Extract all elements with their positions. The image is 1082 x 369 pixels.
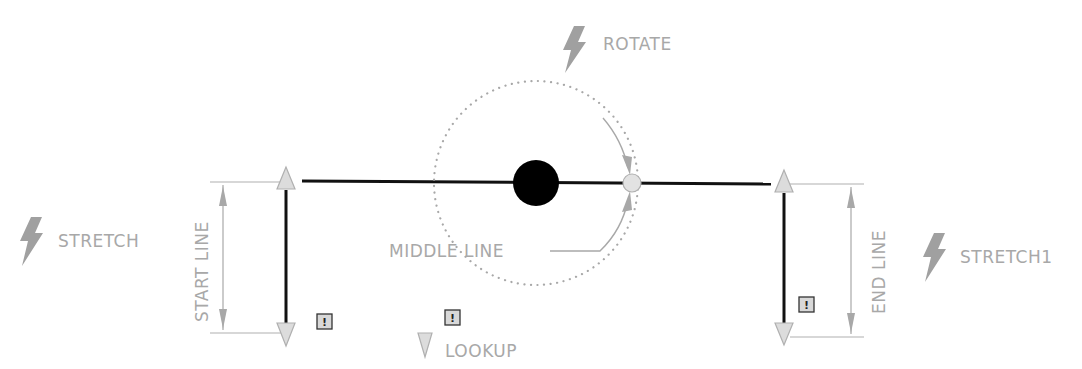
stretch1-action[interactable]: STRETCH1 [923, 233, 1053, 282]
base-point-grip[interactable] [513, 160, 559, 206]
arrowhead-icon [219, 186, 227, 206]
stretch-label: STRETCH [58, 231, 139, 251]
lightning-bolt-icon [563, 26, 586, 73]
leader-line [550, 200, 628, 251]
stretch-action[interactable]: STRETCH [20, 217, 139, 266]
svg-text:!: ! [322, 316, 327, 329]
dynamic-block-diagram: ROTATE STRETCH STRETCH1 START LINE END L… [0, 0, 1082, 369]
arrowhead-icon [847, 313, 855, 333]
lookup-action[interactable]: LOOKUP [418, 333, 517, 361]
lookup-label: LOOKUP [445, 341, 517, 361]
lookup-triangle-icon [418, 333, 432, 357]
end-line-label: END LINE [869, 230, 889, 314]
svg-text:!: ! [450, 312, 455, 325]
arrowhead-icon [622, 155, 632, 175]
rotate-action[interactable]: ROTATE [563, 26, 672, 73]
stretch-grip-down[interactable] [277, 323, 295, 346]
middle-line-label: MIDDLE LINE [389, 241, 504, 261]
stretch1-grip-up[interactable] [775, 170, 793, 192]
alert-icon[interactable]: ! [799, 297, 814, 312]
end-line-parameter[interactable]: END LINE [790, 184, 889, 337]
svg-text:!: ! [804, 299, 809, 312]
alert-icon[interactable]: ! [445, 310, 460, 325]
rotation-grip[interactable] [623, 174, 641, 192]
stretch1-grip-down[interactable] [775, 323, 793, 345]
arrowhead-icon [219, 309, 227, 329]
rotate-label: ROTATE [603, 34, 672, 54]
lightning-bolt-icon [923, 233, 946, 282]
arrowhead-icon [622, 191, 632, 212]
start-line-parameter[interactable]: START LINE [192, 182, 285, 333]
start-line-label: START LINE [192, 221, 212, 322]
alert-icon[interactable]: ! [317, 314, 332, 329]
stretch1-label: STRETCH1 [960, 247, 1053, 267]
stretch-grip-up[interactable] [277, 167, 295, 189]
middle-line-parameter[interactable]: MIDDLE LINE [389, 191, 632, 261]
lightning-bolt-icon [20, 217, 43, 266]
arrowhead-icon [847, 188, 855, 208]
